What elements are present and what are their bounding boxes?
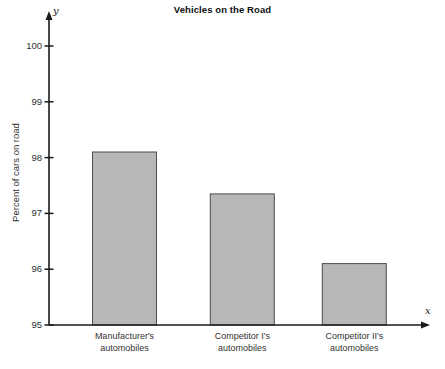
y-tick-label-5: 100 [12, 41, 42, 51]
bar-0 [93, 152, 157, 325]
bar-2 [322, 264, 386, 325]
x-category-label-1: Competitor I's automobiles [197, 331, 287, 354]
x-axis-arrow [421, 322, 430, 329]
y-tick-label-2: 97 [12, 208, 42, 218]
y-tick-label-1: 96 [12, 264, 42, 274]
y-tick-label-4: 99 [12, 97, 42, 107]
y-axis-arrow [46, 11, 53, 20]
bar-chart: Vehicles on the Road Percent of cars on … [0, 0, 445, 369]
y-tick-label-0: 95 [12, 320, 42, 330]
y-tick-label-3: 98 [12, 153, 42, 163]
y-axis-symbol: y [53, 5, 59, 16]
x-category-label-0: Manufacturer's automobiles [80, 331, 170, 354]
bar-1 [210, 194, 274, 325]
plot-area [0, 0, 445, 369]
x-axis-symbol: x [425, 305, 431, 316]
x-category-label-2: Competitor II's automobiles [309, 331, 399, 354]
